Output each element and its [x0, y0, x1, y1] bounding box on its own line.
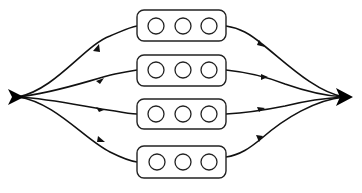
unit-circle [175, 18, 191, 34]
parallel-flow-diagram [0, 0, 362, 193]
unit-circle [201, 154, 217, 170]
unit-circle [201, 18, 217, 34]
branch-box-4 [137, 146, 226, 178]
unit-circle [175, 62, 191, 78]
unit-circle [175, 106, 191, 122]
unit-circle [201, 106, 217, 122]
unit-circle [148, 62, 164, 78]
branch-box-1 [137, 10, 226, 41]
unit-circle [201, 62, 217, 78]
branch-box-3 [137, 99, 226, 129]
unit-circle [148, 18, 164, 34]
unit-circle [175, 154, 191, 170]
unit-circle [148, 106, 164, 122]
unit-circle [149, 154, 165, 170]
branch-box-2 [137, 55, 226, 86]
